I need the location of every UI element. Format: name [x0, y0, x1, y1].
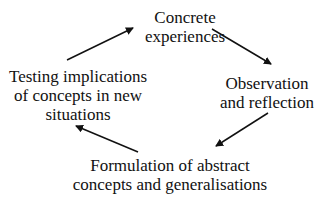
node-line: Formulation of abstract	[70, 156, 270, 175]
node-line: situations	[4, 105, 152, 124]
node-line: concepts and generalisations	[70, 175, 270, 194]
node-concrete-experiences: Concrete experiences	[135, 8, 235, 46]
node-line: Testing implications	[4, 67, 152, 86]
arrow-observation-to-formulation	[216, 113, 268, 146]
node-line: and reflection	[212, 93, 322, 112]
arrow-testing-to-concrete	[67, 28, 133, 60]
node-line: Observation	[212, 74, 322, 93]
node-observation-reflection: Observation and reflection	[212, 74, 322, 112]
node-formulation-abstract-concepts: Formulation of abstract concepts and gen…	[70, 156, 270, 194]
node-line: of concepts in new	[4, 86, 152, 105]
arrow-formulation-to-testing	[76, 126, 138, 152]
node-line: experiences	[135, 27, 235, 46]
node-line: Concrete	[135, 8, 235, 27]
node-testing-implications: Testing implications of concepts in new …	[4, 67, 152, 124]
